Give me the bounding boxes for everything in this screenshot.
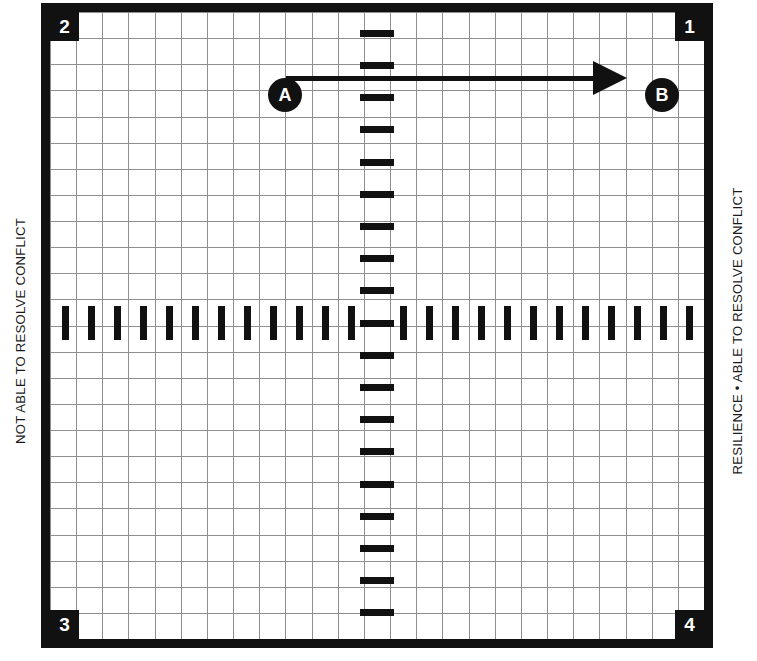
vertical-axis-tick bbox=[360, 384, 394, 391]
vertical-axis-tick bbox=[360, 287, 394, 294]
horizontal-axis-tick bbox=[296, 306, 303, 340]
vertical-axis-tick bbox=[360, 609, 394, 616]
vertical-axis-tick bbox=[360, 448, 394, 455]
vertical-axis-tick bbox=[360, 62, 394, 69]
quadrant-badge-1: 1 bbox=[675, 12, 704, 41]
vertical-axis-tick bbox=[360, 255, 394, 262]
vertical-axis-tick bbox=[360, 481, 394, 488]
horizontal-axis-tick bbox=[270, 306, 277, 340]
horizontal-axis-tick bbox=[88, 306, 95, 340]
horizontal-axis-tick bbox=[452, 306, 459, 340]
right-axis-label-text: RESILIENCE • ABLE TO RESOLVE CONFLICT bbox=[730, 187, 745, 474]
grid-plot-area: A B 2 1 3 4 bbox=[50, 12, 704, 639]
arrow-shaft bbox=[286, 76, 593, 81]
horizontal-axis-tick bbox=[582, 306, 589, 340]
horizontal-axis-tick bbox=[686, 306, 693, 340]
horizontal-axis-tick bbox=[322, 306, 329, 340]
vertical-axis-tick bbox=[360, 513, 394, 520]
horizontal-axis-tick bbox=[660, 306, 667, 340]
vertical-axis-tick bbox=[360, 94, 394, 101]
horizontal-axis-tick bbox=[556, 306, 563, 340]
horizontal-axis-tick bbox=[114, 306, 121, 340]
horizontal-axis-tick bbox=[62, 306, 69, 340]
point-marker-a[interactable]: A bbox=[268, 78, 302, 112]
vertical-axis-tick bbox=[360, 545, 394, 552]
vertical-axis-tick bbox=[360, 320, 394, 327]
right-axis-label: RESILIENCE • ABLE TO RESOLVE CONFLICT bbox=[717, 0, 757, 661]
vertical-axis-tick bbox=[360, 577, 394, 584]
left-axis-label: NOT ABLE TO RESOLVE CONFLICT bbox=[0, 0, 40, 661]
horizontal-axis-tick bbox=[530, 306, 537, 340]
diagram-canvas: NOT ABLE TO RESOLVE CONFLICT RESILIENCE … bbox=[0, 0, 757, 661]
horizontal-axis-tick bbox=[634, 306, 641, 340]
quadrant-badge-2: 2 bbox=[50, 12, 79, 41]
horizontal-axis-tick bbox=[478, 306, 485, 340]
horizontal-axis-tick bbox=[426, 306, 433, 340]
horizontal-axis-tick bbox=[244, 306, 251, 340]
arrow-head-icon bbox=[593, 61, 627, 95]
horizontal-axis-tick bbox=[218, 306, 225, 340]
left-axis-label-text: NOT ABLE TO RESOLVE CONFLICT bbox=[13, 218, 28, 444]
horizontal-axis-tick bbox=[400, 306, 407, 340]
vertical-axis-tick bbox=[360, 416, 394, 423]
horizontal-axis-tick bbox=[504, 306, 511, 340]
horizontal-axis-tick bbox=[348, 306, 355, 340]
vertical-axis-tick bbox=[360, 191, 394, 198]
horizontal-axis-tick bbox=[140, 306, 147, 340]
quadrant-badge-4: 4 bbox=[675, 610, 704, 639]
vertical-axis-tick bbox=[360, 30, 394, 37]
horizontal-axis-tick bbox=[192, 306, 199, 340]
vertical-axis-tick bbox=[360, 159, 394, 166]
vertical-axis-tick bbox=[360, 126, 394, 133]
point-marker-b[interactable]: B bbox=[645, 78, 679, 112]
vertical-axis-tick bbox=[360, 223, 394, 230]
quadrant-frame: A B 2 1 3 4 bbox=[41, 3, 713, 648]
horizontal-axis-tick bbox=[608, 306, 615, 340]
horizontal-axis-tick bbox=[166, 306, 173, 340]
vertical-axis-tick bbox=[360, 352, 394, 359]
quadrant-badge-3: 3 bbox=[50, 610, 79, 639]
